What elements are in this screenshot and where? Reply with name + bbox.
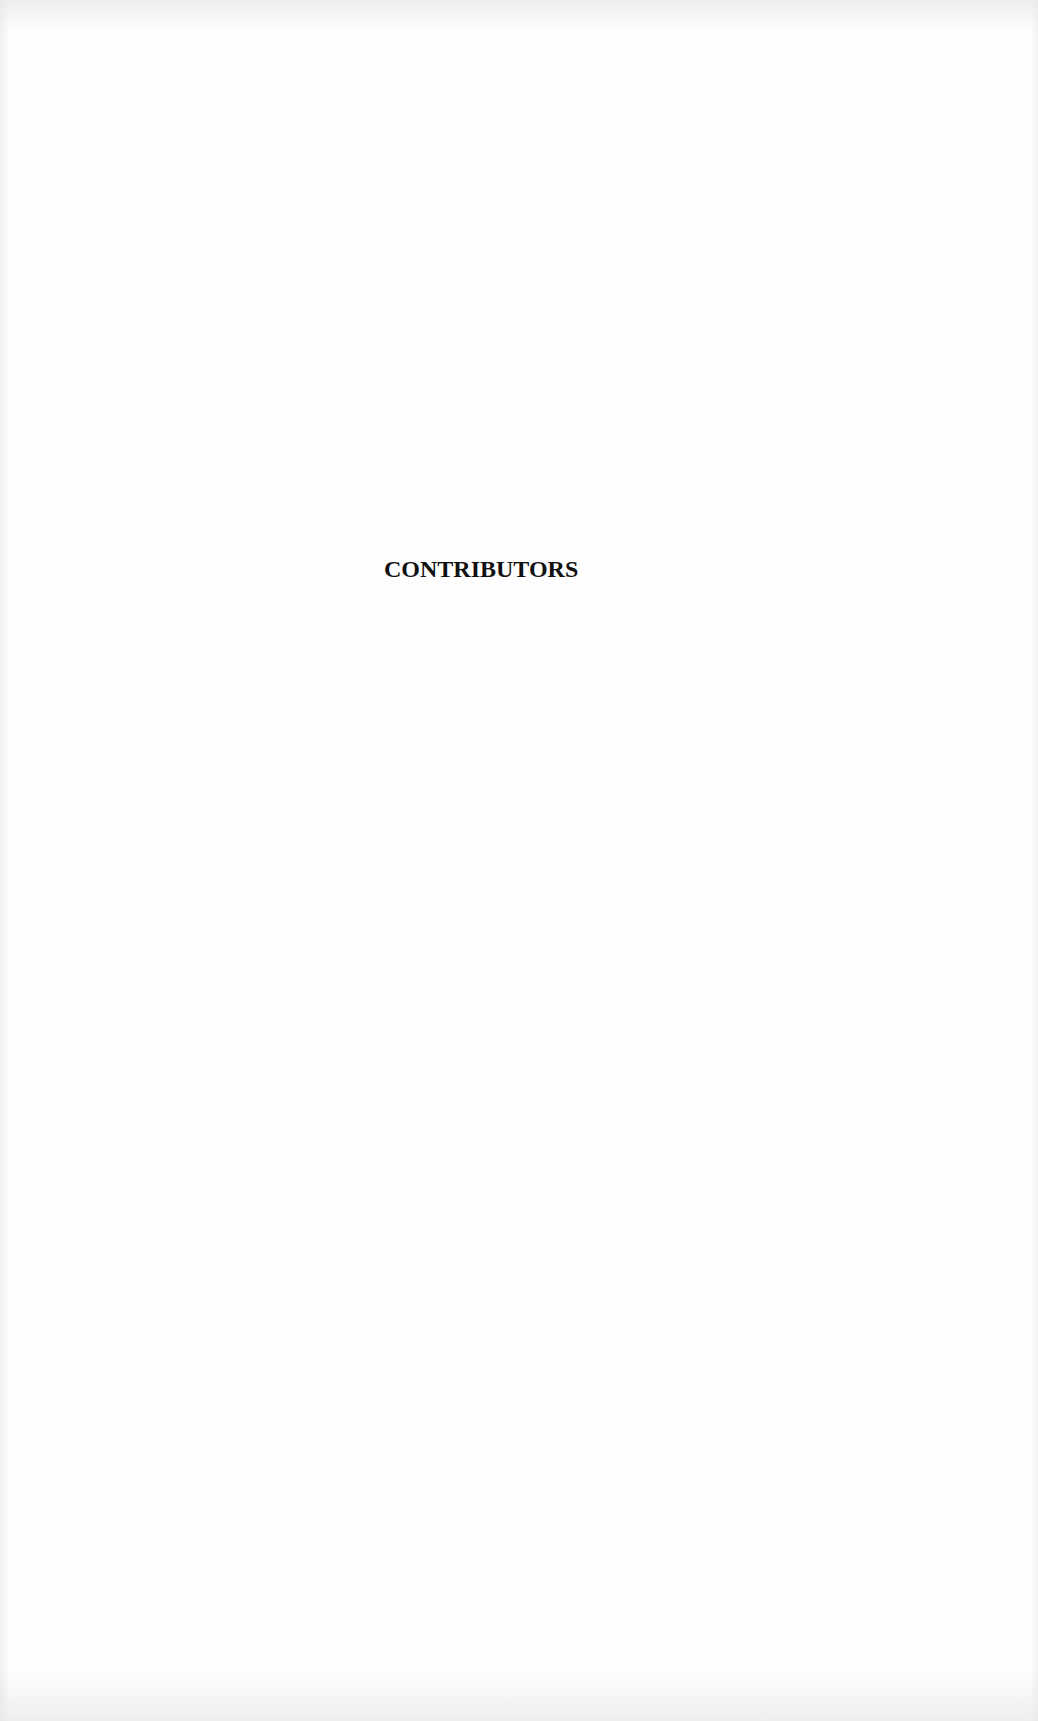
scan-edge-right <box>1030 0 1038 1721</box>
document-page: CONTRIBUTORS <box>0 0 1038 1721</box>
scan-edge-bottom <box>0 1671 1038 1721</box>
section-heading: CONTRIBUTORS <box>384 556 578 583</box>
scan-edge-top <box>0 0 1038 30</box>
scan-edge-left <box>0 0 10 1721</box>
